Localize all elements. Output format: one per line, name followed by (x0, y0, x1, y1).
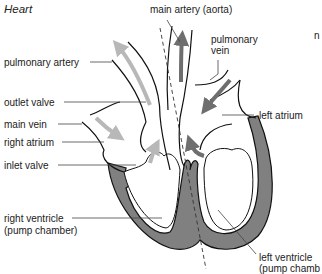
label-pulmonary-vein-2: vein (211, 45, 229, 56)
label-left-ventricle-1: left ventricle (259, 252, 312, 263)
label-inlet-valve: inlet valve (4, 160, 48, 171)
label-right-ventricle-2: (pump chamber) (4, 225, 77, 236)
flow-arrows (96, 38, 230, 163)
label-right-ventricle-1: right ventricle (4, 213, 63, 224)
label-pulmonary-artery: pulmonary artery (4, 57, 79, 68)
label-main-vein: main vein (4, 119, 47, 130)
arrow-main-vein (96, 118, 118, 136)
label-pulmonary-vein-1: pulmonary (211, 34, 258, 45)
label-main-artery: main artery (aorta) (150, 4, 232, 15)
label-right-atrium: right atrium (4, 137, 54, 148)
arrow-aorta (181, 38, 182, 82)
arrow-pulmonary-artery (118, 46, 150, 105)
label-outlet-valve: outlet valve (4, 97, 55, 108)
ventricle-muscle (108, 116, 272, 249)
label-left-atrium: left atrium (259, 110, 303, 121)
label-cut-off: n (314, 30, 320, 41)
label-left-ventricle-2: (pump chamb (259, 263, 320, 274)
